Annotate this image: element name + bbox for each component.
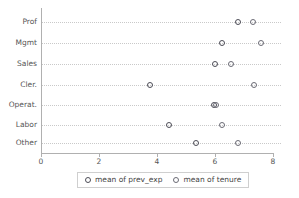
y-tick-label: Prof — [22, 18, 37, 26]
x-tick-label: 4 — [155, 158, 160, 166]
gridline-row — [41, 143, 281, 144]
data-point-marker — [213, 102, 219, 108]
y-tick-label: Operat. — [9, 101, 37, 109]
legend-entry[interactable]: mean of prev_exp — [85, 176, 162, 184]
gridline-row — [41, 105, 281, 106]
y-axis-line — [41, 8, 42, 153]
y-tick-label: Other — [16, 139, 37, 147]
legend-entry[interactable]: mean of tenure — [173, 176, 241, 184]
open-circle-icon — [173, 177, 179, 183]
data-point-marker — [166, 122, 172, 128]
data-point-marker — [235, 140, 241, 146]
legend-label: mean of prev_exp — [95, 176, 162, 184]
data-point-marker — [258, 40, 264, 46]
x-axis-tick-labels: 02468 — [0, 153, 299, 169]
data-point-marker — [250, 19, 256, 25]
x-tick-label: 2 — [97, 158, 102, 166]
y-axis-tick-labels: ProfMgmtSalesCler.Operat.LaborOther — [0, 8, 37, 153]
gridline-row — [41, 125, 281, 126]
y-tick-label: Cler. — [20, 81, 37, 89]
x-tick-label: 8 — [271, 158, 276, 166]
gridline-row — [41, 85, 281, 86]
gridline-row — [41, 64, 281, 65]
chart-legend: mean of prev_expmean of tenure — [77, 172, 249, 188]
data-point-marker — [235, 19, 241, 25]
legend-label: mean of tenure — [183, 176, 241, 184]
x-tick-label: 6 — [213, 158, 218, 166]
data-point-marker — [228, 61, 234, 67]
open-circle-icon — [85, 177, 91, 183]
scatter-chart: ProfMgmtSalesCler.Operat.LaborOther 0246… — [0, 0, 299, 198]
x-tick-label: 0 — [39, 158, 44, 166]
data-point-marker — [147, 82, 153, 88]
gridline-row — [41, 22, 281, 23]
data-point-marker — [251, 82, 257, 88]
gridline-row — [41, 43, 281, 44]
data-point-marker — [219, 122, 225, 128]
data-point-marker — [193, 140, 199, 146]
y-tick-label: Labor — [16, 121, 37, 129]
data-point-marker — [219, 40, 225, 46]
data-point-marker — [212, 61, 218, 67]
y-tick-label: Sales — [17, 60, 37, 68]
plot-area — [41, 8, 281, 153]
y-tick-label: Mgmt — [16, 39, 37, 47]
